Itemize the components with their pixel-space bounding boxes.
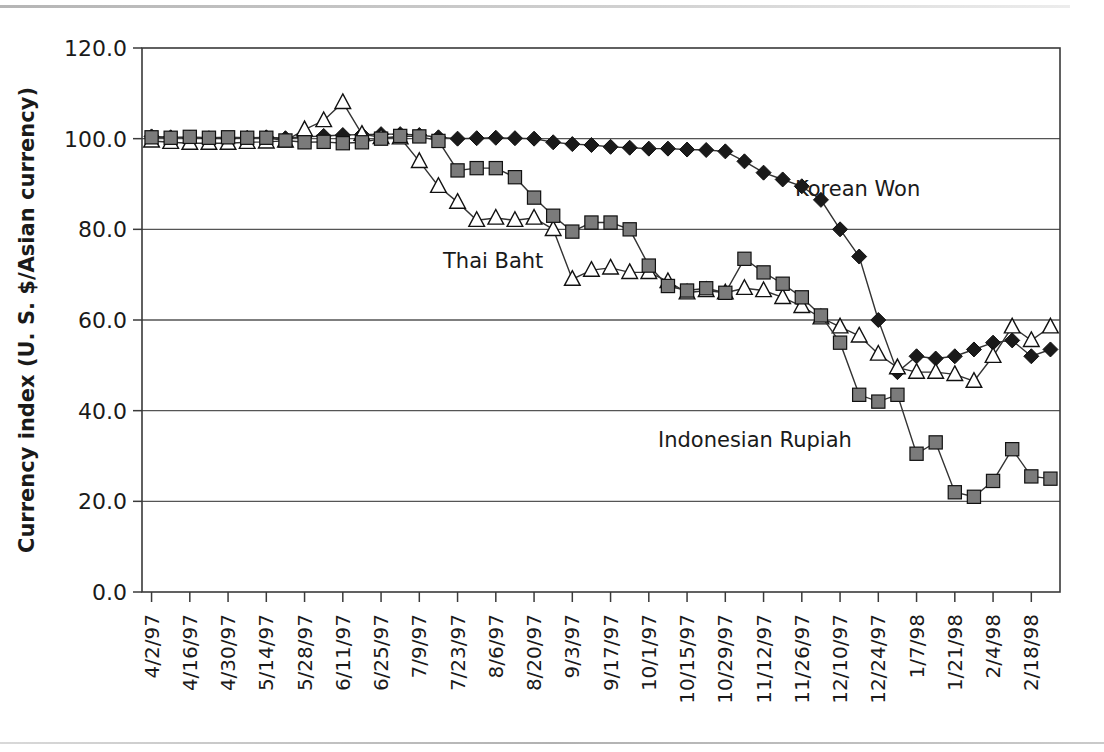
x-tick-label: 7/23/97 [446,614,470,691]
x-tick-label: 9/3/97 [560,614,584,678]
x-tick-label: 12/10/97 [828,614,852,704]
marker-diamond [852,249,867,264]
y-tick-label: 80.0 [78,217,127,242]
series-line [152,134,1051,372]
marker-diamond [660,141,675,156]
marker-triangle [1023,332,1039,347]
marker-square [470,162,483,175]
marker-square [604,216,617,229]
y-axis-title-text: Currency index (U. S. $/Asian currency) [15,87,39,553]
marker-diamond [833,222,848,237]
marker-triangle [985,348,1001,363]
y-tick-label: 40.0 [78,399,127,424]
marker-square [910,447,923,460]
series-indonesian-rupiah [145,129,1057,503]
x-tick-label: 4/2/97 [140,614,164,678]
marker-square [489,162,502,175]
x-tick-label: 10/15/97 [675,614,699,704]
marker-triangle [316,112,332,127]
marker-square [374,132,387,145]
marker-square [738,252,751,265]
marker-square [719,286,732,299]
marker-square [1025,470,1038,483]
scan-edge-top [0,5,1070,8]
marker-diamond [718,144,733,159]
currency-index-line-chart: Currency index (U. S. $/Asian currency) … [0,0,1104,752]
marker-diamond [1043,342,1058,357]
marker-square [164,131,177,144]
marker-triangle [526,210,542,225]
marker-square [661,279,674,292]
marker-diamond [450,131,465,146]
marker-triangle [603,259,619,274]
marker-diamond [756,165,771,180]
marker-diamond [737,154,752,169]
marker-square [221,131,234,144]
marker-square [298,136,311,149]
y-axis-title: Currency index (U. S. $/Asian currency) [15,87,39,553]
marker-square [145,131,158,144]
marker-square [642,259,655,272]
marker-triangle [450,194,466,209]
x-tick-label: 4/30/97 [216,614,240,691]
marker-triangle [488,210,504,225]
y-tick-label: 20.0 [78,489,127,514]
marker-square [1006,443,1019,456]
marker-square [776,277,789,290]
x-tick-label: 10/1/97 [637,614,661,691]
marker-square [700,282,713,295]
x-tick-label: 5/14/97 [254,614,278,691]
marker-square [680,284,693,297]
marker-square [623,223,636,236]
marker-square [202,131,215,144]
x-tick-label: 2/18/98 [1019,614,1043,691]
marker-square [547,209,560,222]
marker-diamond [699,143,714,158]
x-tick-label: 4/16/97 [178,614,202,691]
marker-square [757,266,770,279]
marker-square [585,216,598,229]
marker-square [795,291,808,304]
marker-triangle [870,346,886,361]
y-tick-label: 60.0 [78,308,127,333]
x-tick-label: 7/9/97 [407,614,431,678]
y-tick-label: 100.0 [64,127,127,152]
marker-square [527,191,540,204]
x-tick-label: 8/20/97 [522,614,546,691]
marker-triangle [297,121,313,136]
x-tick-label: 8/6/97 [484,614,508,678]
marker-diamond [488,130,503,145]
marker-diamond [966,342,981,357]
marker-square [279,134,292,147]
marker-triangle [928,364,944,379]
x-tick-label: 9/17/97 [599,614,623,691]
x-tick-label: 11/12/97 [752,614,776,704]
marker-diamond [603,139,618,154]
marker-square [872,395,885,408]
marker-square [948,486,961,499]
x-tick-label: 11/26/97 [790,614,814,704]
x-tick-label: 5/28/97 [293,614,317,691]
marker-diamond [527,131,542,146]
x-tick-group: 4/2/974/16/974/30/975/14/975/28/976/11/9… [140,592,1044,704]
thai-baht-label: Thai Baht [442,249,543,273]
marker-square [853,388,866,401]
marker-square [986,474,999,487]
marker-diamond [507,131,522,146]
korean-won-label: Korean Won [795,177,920,201]
figure-container: Currency index (U. S. $/Asian currency) … [0,0,1104,752]
scan-edge-bottom [0,742,1104,744]
marker-square [183,130,196,143]
marker-diamond [947,349,962,364]
marker-triangle [335,94,351,109]
marker-square [1044,472,1057,485]
marker-diamond [469,131,484,146]
marker-square [833,336,846,349]
marker-square [241,131,254,144]
marker-diamond [584,138,599,153]
marker-diamond [871,313,886,328]
marker-square [432,134,445,147]
x-tick-label: 2/4/98 [981,614,1005,678]
marker-triangle [851,327,867,342]
marker-square [508,171,521,184]
